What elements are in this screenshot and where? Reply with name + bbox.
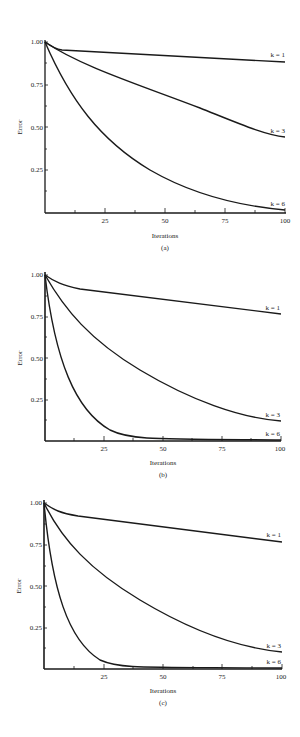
y-tick-labels: 1.00 0.75 0.50 0.25 bbox=[30, 499, 43, 632]
y-tick-label: 1.00 bbox=[31, 271, 44, 279]
y-tick-label: 0.50 bbox=[31, 355, 44, 363]
y-axis-title: Error bbox=[16, 350, 24, 365]
x-axis-title: Iterations bbox=[150, 459, 177, 467]
y-tick-labels: 1.00 0.75 0.50 0.25 bbox=[31, 271, 44, 404]
curve-k1 bbox=[45, 275, 281, 314]
curve-label-k3: k = 3 bbox=[266, 411, 281, 419]
x-tick-labels: 25 50 75 100 bbox=[101, 673, 287, 681]
y-tick-label: 0.75 bbox=[31, 313, 44, 321]
panel-caption: (b) bbox=[159, 471, 168, 479]
curve-label-k1: k = 1 bbox=[266, 304, 281, 312]
chart-panel-b: 1.00 0.75 0.50 0.25 25 50 75 100 Error I… bbox=[0, 0, 300, 737]
x-tick-label: 25 bbox=[101, 673, 109, 681]
x-tick-label: 50 bbox=[160, 445, 168, 453]
curve-label-k1: k = 1 bbox=[267, 531, 282, 539]
x-tick-label: 100 bbox=[275, 445, 286, 453]
y-tick-label: 1.00 bbox=[30, 499, 43, 507]
curve-k3 bbox=[45, 275, 281, 421]
x-tick-label: 75 bbox=[219, 673, 227, 681]
chart-panel-c: 1.00 0.75 0.50 0.25 25 50 75 100 Error I… bbox=[15, 499, 287, 707]
curve-k1 bbox=[44, 503, 282, 542]
curve-label-k6: k = 6 bbox=[266, 430, 281, 438]
x-tick-label: 25 bbox=[101, 445, 109, 453]
y-tick-label: 0.75 bbox=[30, 541, 43, 549]
y-tick-label: 0.50 bbox=[30, 583, 43, 591]
curve-k6 bbox=[44, 503, 282, 668]
y-tick-label: 0.25 bbox=[30, 624, 43, 632]
x-tick-label: 50 bbox=[160, 673, 168, 681]
y-tick-label: 0.25 bbox=[31, 396, 44, 404]
x-tick-label: 100 bbox=[276, 673, 287, 681]
y-axis-title: Error bbox=[15, 578, 23, 593]
chart-b-svg: 1.00 0.75 0.50 0.25 25 50 75 100 Error I… bbox=[0, 0, 300, 737]
panel-caption: (c) bbox=[159, 699, 167, 707]
x-tick-label: 75 bbox=[219, 445, 227, 453]
x-axis-title: Iterations bbox=[150, 687, 177, 695]
x-tick-labels: 25 50 75 100 bbox=[101, 445, 286, 453]
curve-label-k3: k = 3 bbox=[267, 642, 282, 650]
curve-label-k6: k = 6 bbox=[267, 658, 282, 666]
curve-k3 bbox=[44, 503, 282, 652]
